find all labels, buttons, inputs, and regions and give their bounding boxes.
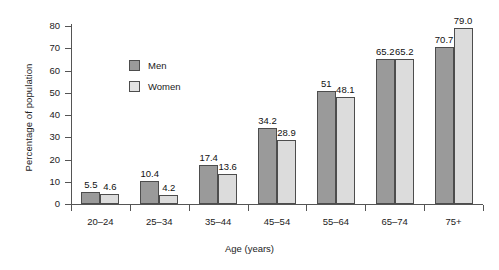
x-tick-label: 75+: [424, 216, 483, 227]
x-axis-title: Age (years): [0, 243, 499, 254]
bar-women-2: [218, 174, 237, 204]
y-tick: [65, 137, 71, 138]
x-tick: [189, 205, 190, 211]
y-tick-label: 0: [20, 199, 60, 208]
legend-label-women: Women: [148, 81, 181, 92]
x-tick: [306, 205, 307, 211]
x-tick: [130, 205, 131, 211]
y-tick: [65, 93, 71, 94]
y-tick: [65, 26, 71, 27]
bar-men-3: [258, 128, 277, 204]
x-tick-label: 65–74: [365, 216, 424, 227]
x-tick: [248, 205, 249, 211]
x-tick-label: 20–24: [71, 216, 130, 227]
x-tick: [424, 205, 425, 211]
bar-value-label: 65.2: [387, 47, 421, 57]
legend-label-men: Men: [148, 60, 166, 71]
bar-men-0: [81, 192, 100, 204]
x-tick-label: 35–44: [189, 216, 248, 227]
bar-women-6: [454, 28, 473, 204]
legend-swatch-men: [129, 60, 140, 71]
legend-item-men: Men: [129, 57, 181, 73]
bar-value-label: 28.9: [270, 128, 304, 138]
bar-value-label: 13.6: [211, 162, 245, 172]
y-tick: [65, 160, 71, 161]
bar-value-label: 4.2: [152, 183, 186, 193]
y-tick-label: 60: [20, 66, 60, 75]
bar-women-5: [395, 59, 414, 204]
legend-item-women: Women: [129, 78, 181, 94]
y-tick-label: 80: [20, 21, 60, 30]
y-tick-label: 70: [20, 43, 60, 52]
bar-chart: Percentage of population 010203040506070…: [0, 0, 499, 270]
x-axis-line: [71, 204, 483, 205]
x-tick: [365, 205, 366, 211]
bar-value-label: 34.2: [251, 116, 285, 126]
bar-value-label: 10.4: [133, 169, 167, 179]
y-tick: [65, 71, 71, 72]
y-tick: [65, 48, 71, 49]
y-tick-label: 20: [20, 155, 60, 164]
bar-value-label: 48.1: [328, 85, 362, 95]
bar-women-4: [336, 97, 355, 204]
x-tick-label: 25–34: [130, 216, 189, 227]
bar-value-label: 79.0: [446, 16, 480, 26]
y-tick-label: 50: [20, 88, 60, 97]
legend: Men Women: [129, 57, 181, 99]
bar-men-5: [376, 59, 395, 204]
bar-value-label: 4.6: [93, 182, 127, 192]
y-tick: [65, 182, 71, 183]
bar-women-0: [100, 194, 119, 204]
x-tick-label: 55–64: [306, 216, 365, 227]
legend-swatch-women: [129, 81, 140, 92]
x-tick-label: 45–54: [248, 216, 307, 227]
y-tick-label: 30: [20, 132, 60, 141]
y-tick-label: 10: [20, 177, 60, 186]
y-axis-line: [71, 24, 72, 205]
y-tick: [65, 115, 71, 116]
x-tick: [71, 205, 72, 211]
y-tick-label: 40: [20, 110, 60, 119]
bar-men-4: [317, 91, 336, 204]
x-tick: [483, 205, 484, 211]
bar-women-1: [159, 195, 178, 204]
bar-men-6: [435, 47, 454, 204]
bar-women-3: [277, 140, 296, 204]
